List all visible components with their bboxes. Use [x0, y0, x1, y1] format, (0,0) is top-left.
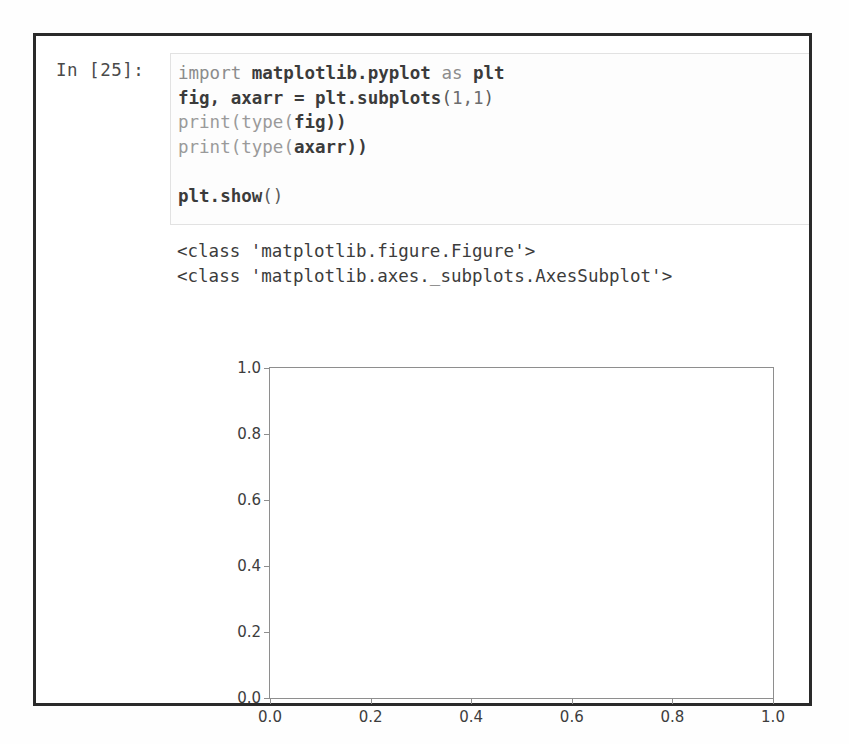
y-tick-label: 0.0 — [237, 689, 261, 707]
x-tick-label: 0.0 — [258, 708, 282, 726]
code-token: ( — [283, 112, 294, 132]
code-line — [178, 159, 809, 184]
code-token: ) — [484, 88, 495, 108]
code-token: ( — [441, 88, 452, 108]
y-tick-mark — [264, 368, 270, 369]
notebook-cell: In [25]: import matplotlib.pyplot as plt… — [33, 33, 812, 706]
input-prompt-label: In [25]: — [56, 58, 176, 82]
x-tick-label: 0.6 — [560, 708, 584, 726]
y-tick-mark — [264, 500, 270, 501]
y-tick-label: 0.8 — [237, 425, 261, 443]
code-line: print(type(axarr)) — [178, 135, 809, 160]
code-token: ( — [283, 137, 294, 157]
y-tick-label: 0.4 — [237, 557, 261, 575]
code-lines-container: import matplotlib.pyplot as pltfig, axar… — [178, 61, 809, 208]
y-tick-mark — [264, 632, 270, 633]
x-tick-label: 0.2 — [359, 708, 383, 726]
y-tick-label: 0.2 — [237, 623, 261, 641]
cell-text-output: <class 'matplotlib.figure.Figure'><class… — [177, 239, 797, 289]
code-token: matplotlib.pyplot — [252, 63, 442, 83]
y-tick-label: 1.0 — [237, 359, 261, 377]
code-line: import matplotlib.pyplot as plt — [178, 61, 809, 86]
x-tick-mark — [672, 698, 673, 704]
code-token: as — [441, 63, 473, 83]
code-token: import — [178, 63, 252, 83]
code-token: print — [178, 137, 231, 157]
y-tick-mark — [264, 566, 270, 567]
matplotlib-axes: 0.00.20.40.60.81.0 0.00.20.40.60.81.0 — [269, 367, 774, 699]
code-token: plt — [473, 63, 505, 83]
x-tick-mark — [371, 698, 372, 704]
output-line: <class 'matplotlib.axes._subplots.AxesSu… — [177, 264, 797, 289]
x-tick-mark — [773, 698, 774, 704]
code-input-editor[interactable]: import matplotlib.pyplot as pltfig, axar… — [170, 53, 809, 225]
matplotlib-figure: 0.00.20.40.60.81.0 0.00.20.40.60.81.0 — [156, 298, 796, 698]
output-line: <class 'matplotlib.figure.Figure'> — [177, 239, 797, 264]
code-token: type — [241, 137, 283, 157]
code-token: ( — [231, 112, 242, 132]
x-tick-label: 0.4 — [459, 708, 483, 726]
code-token: axarr)) — [294, 137, 368, 157]
code-token: fig, axarr = plt.subplots — [178, 88, 441, 108]
code-token: 1,1 — [452, 88, 484, 108]
code-line: plt.show() — [178, 184, 809, 209]
code-token: print — [178, 112, 231, 132]
y-tick-label: 0.6 — [237, 491, 261, 509]
code-token: fig)) — [294, 112, 347, 132]
code-token: ( — [231, 137, 242, 157]
cell-plot-output: 0.00.20.40.60.81.0 0.00.20.40.60.81.0 — [156, 298, 796, 698]
code-token: plt.show — [178, 186, 262, 206]
y-tick-mark — [264, 434, 270, 435]
code-token: type — [241, 112, 283, 132]
x-tick-label: 1.0 — [761, 708, 785, 726]
code-line: fig, axarr = plt.subplots(1,1) — [178, 86, 809, 111]
code-token: () — [262, 186, 283, 206]
x-tick-mark — [471, 698, 472, 704]
x-tick-mark — [572, 698, 573, 704]
code-line: print(type(fig)) — [178, 110, 809, 135]
x-tick-label: 0.8 — [660, 708, 684, 726]
x-tick-mark — [270, 698, 271, 704]
